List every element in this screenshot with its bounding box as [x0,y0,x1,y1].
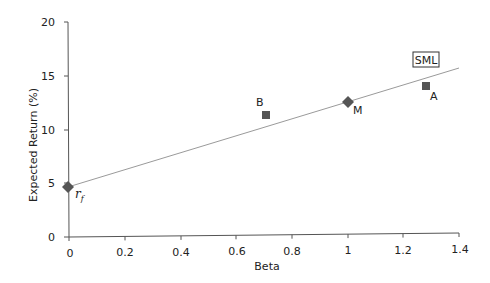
rf-label: rf [75,187,86,203]
square-marker-icon [422,82,430,90]
y-tick-label: 5 [48,177,55,190]
point-m: M [342,96,363,117]
y-axis-title: Expected Return (%) [27,88,40,202]
point-rf: rf [62,181,86,203]
sml-label: SML [413,52,439,67]
diamond-marker-icon [62,181,74,193]
x-axis-title: Beta [254,260,279,273]
x-tick-label: 0.2 [116,246,134,259]
x-tick-label: 0.8 [283,245,301,258]
square-marker-icon [262,111,270,119]
x-tick-label: 0.4 [172,246,190,259]
sml-chart: 20 15 10 5 0 0 0.2 0.4 0.6 0.8 1 1.2 1.4… [0,0,490,283]
y-tick-label: 10 [41,124,55,137]
x-tick-label: 1 [345,244,352,257]
sml-label-text: SML [415,54,438,67]
x-tick-label: 0.6 [228,245,246,258]
y-tick-label: 0 [48,231,55,244]
rf-label-sub: f [80,194,86,203]
x-tick-label: 0 [67,247,74,260]
x-axis: 0 0.2 0.4 0.6 0.8 1 1.2 1.4 [67,233,469,260]
sml-line [68,68,459,187]
point-b: B [256,96,270,119]
m-label: M [353,104,363,117]
x-tick-label: 1.2 [394,244,412,257]
point-a: A [422,82,438,103]
x-tick-label: 1.4 [451,243,469,256]
y-axis: 20 15 10 5 0 [41,16,69,244]
y-tick-label: 20 [41,16,55,29]
a-label: A [430,90,438,103]
y-tick-label: 15 [41,70,55,83]
b-label: B [256,96,264,109]
